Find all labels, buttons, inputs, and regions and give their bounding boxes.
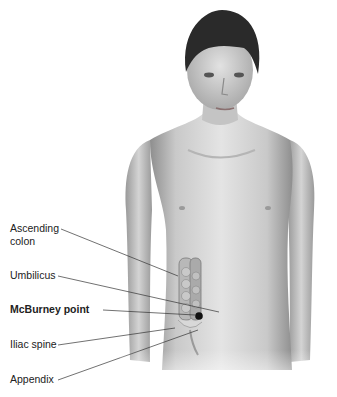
mcburney-marker xyxy=(195,312,203,320)
label-umbilicus: Umbilicus xyxy=(10,269,56,282)
label-iliac-spine: Iliac spine xyxy=(10,338,57,351)
head xyxy=(185,10,259,110)
label-appendix: Appendix xyxy=(10,373,54,386)
torso xyxy=(150,112,293,370)
label-ascending-colon: Ascending colon xyxy=(10,222,59,248)
label-mcburney-point: McBurney point xyxy=(10,303,89,316)
left-arm xyxy=(126,140,152,362)
